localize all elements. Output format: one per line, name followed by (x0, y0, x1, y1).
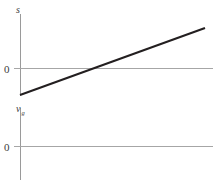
upper-axis-label: s (16, 4, 20, 15)
upper-panel-displacement: s 0 (4, 4, 213, 96)
figure-container: s 0 v g 0 (0, 0, 217, 184)
lower-axis-label-subscript: g (22, 109, 26, 116)
upper-data-line (20, 28, 205, 95)
lower-zero-tick-label: 0 (4, 141, 10, 153)
lower-axis-label: v (16, 103, 21, 114)
two-panel-plot: s 0 v g 0 (0, 0, 217, 184)
upper-zero-tick-label: 0 (4, 63, 10, 75)
lower-panel-velocity: v g 0 (4, 103, 213, 180)
